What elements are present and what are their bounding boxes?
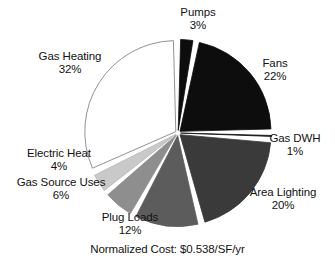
slice-label-gas-source-uses-pct: 6% [0, 189, 122, 202]
slice-label-fans-pct: 22% [245, 70, 305, 83]
slice-label-plug-loads-pct: 12% [82, 224, 178, 237]
slice-label-pumps: Pumps 3% [159, 6, 237, 32]
slice-label-gas-heating-name: Gas Heating [22, 50, 118, 63]
slice-label-gas-source-uses: Gas Source Uses 6% [0, 176, 122, 202]
pie-slice-fans [180, 42, 271, 131]
slice-label-area-lighting-name: Area Lighting [231, 186, 335, 199]
slice-label-fans-name: Fans [245, 57, 305, 70]
slice-label-pumps-pct: 3% [159, 19, 237, 32]
slice-label-gas-dwh-name: Gas DWH [256, 132, 334, 145]
slice-label-gas-dwh-pct: 1% [256, 145, 334, 158]
slice-label-area-lighting-pct: 20% [231, 199, 335, 212]
slice-label-pumps-name: Pumps [159, 6, 237, 19]
slice-label-electric-heat: Electric Heat 4% [9, 147, 109, 173]
slice-label-gas-source-uses-name: Gas Source Uses [0, 176, 122, 189]
chart-caption: Normalized Cost: $0.538/SF/yr [0, 243, 335, 255]
slice-label-plug-loads-name: Plug Loads [82, 211, 178, 224]
slice-label-area-lighting: Area Lighting 20% [231, 186, 335, 212]
slice-label-gas-dwh: Gas DWH 1% [256, 132, 334, 158]
pie-chart-figure: Pumps 3% Fans 22% Gas DWH 1% Area Lighti… [0, 0, 335, 263]
slice-label-gas-heating-pct: 32% [22, 63, 118, 76]
slice-label-plug-loads: Plug Loads 12% [82, 211, 178, 237]
slice-label-gas-heating: Gas Heating 32% [22, 50, 118, 76]
slice-label-electric-heat-pct: 4% [9, 160, 109, 173]
slice-label-fans: Fans 22% [245, 57, 305, 83]
slice-label-electric-heat-name: Electric Heat [9, 147, 109, 160]
